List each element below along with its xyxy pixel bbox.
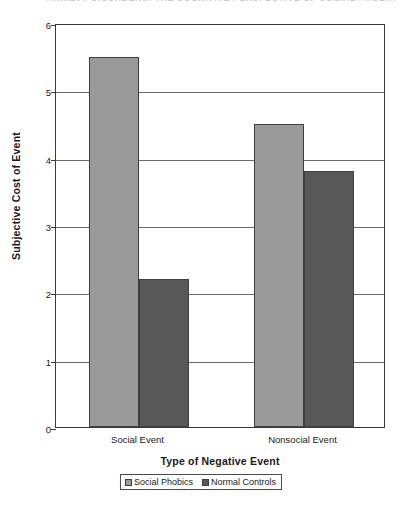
y-axis-title: Subjective Cost of Event <box>10 96 22 296</box>
plot-area: 6543210 <box>55 24 385 428</box>
legend-swatch-icon <box>202 479 209 486</box>
y-axis-tick-label: 6 <box>46 20 51 31</box>
y-axis-tick-label: 1 <box>46 356 51 367</box>
y-axis-tick-mark <box>51 25 56 26</box>
y-axis-tick-label: 5 <box>46 87 51 98</box>
legend-label: Normal Controls <box>211 477 276 487</box>
y-axis-tick-mark <box>51 294 56 295</box>
bar <box>304 171 354 427</box>
legend-entry: Normal Controls <box>202 477 276 487</box>
bar <box>254 124 304 427</box>
x-axis-tick-label: Nonsocial Event <box>268 434 337 445</box>
bar-chart-figure: Subjective Cost of Event 6543210 Social … <box>0 0 402 514</box>
y-axis-tick-mark <box>51 227 56 228</box>
x-axis-title: Type of Negative Event <box>55 455 385 467</box>
y-axis-tick-mark <box>51 429 56 430</box>
bar <box>89 57 139 427</box>
x-axis-tick-label: Social Event <box>111 434 164 445</box>
y-axis-tick-mark <box>51 92 56 93</box>
y-axis-tick-mark <box>51 160 56 161</box>
y-axis-tick-mark <box>51 362 56 363</box>
legend-label: Social Phobics <box>134 477 193 487</box>
y-axis-tick-label: 2 <box>46 289 51 300</box>
y-axis-tick-label: 4 <box>46 154 51 165</box>
legend-swatch-icon <box>125 479 132 486</box>
legend-entry: Social Phobics <box>125 477 193 487</box>
y-axis-tick-label: 3 <box>46 222 51 233</box>
y-axis-tick-label: 0 <box>46 424 51 435</box>
bar <box>139 279 189 427</box>
chart-legend: Social PhobicsNormal Controls <box>120 474 282 490</box>
